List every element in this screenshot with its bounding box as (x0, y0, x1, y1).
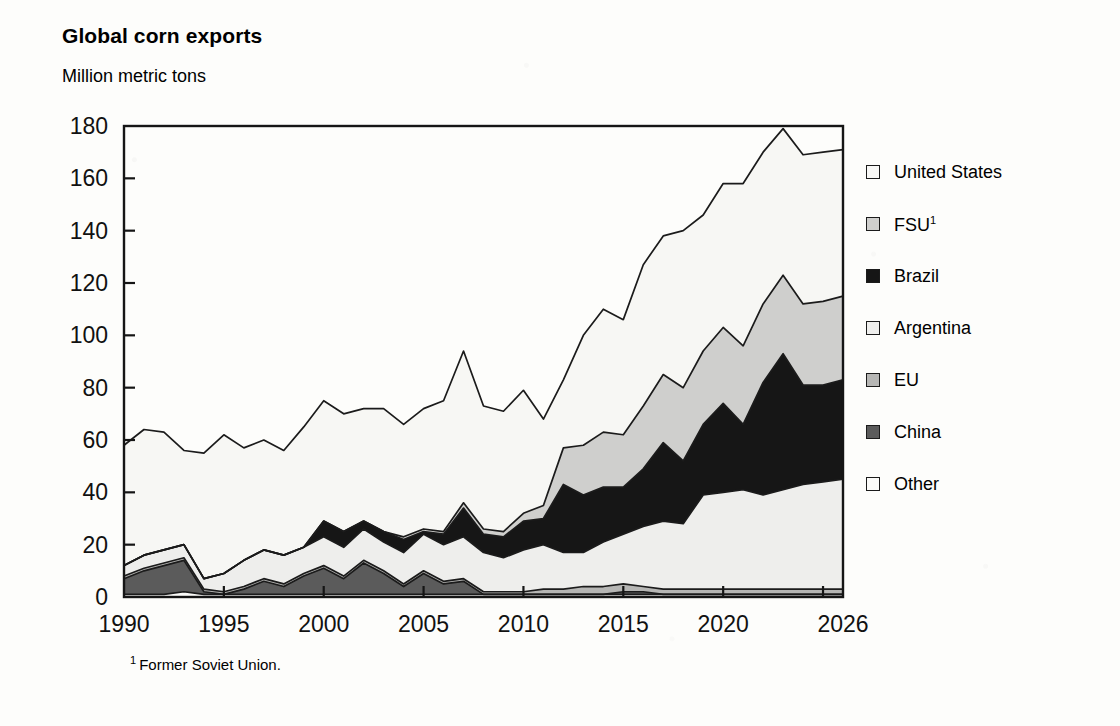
chart-legend: United StatesFSU1BrazilArgentinaEUChinaO… (866, 162, 1106, 494)
legend-item-brazil[interactable]: Brazil (866, 266, 1106, 286)
x-tick-label-1990: 1990 (98, 611, 149, 637)
y-tick-label-160: 160 (70, 165, 108, 191)
legend-swatch-eu-icon (866, 373, 880, 387)
x-tick-label-2000: 2000 (298, 611, 349, 637)
legend-label-china: China (894, 423, 941, 441)
legend-item-other[interactable]: Other (866, 474, 1106, 494)
chart-footnote: 1Former Soviet Union. (130, 654, 281, 673)
y-tick-label-180: 180 (70, 113, 108, 139)
footnote-marker: 1 (130, 654, 136, 666)
legend-label-eu: EU (894, 371, 919, 389)
y-tick-label-120: 120 (70, 270, 108, 296)
y-tick-label-20: 20 (82, 532, 108, 558)
y-tick-label-60: 60 (82, 427, 108, 453)
legend-swatch-brazil-icon (866, 269, 880, 283)
x-tick-labels-group: 19901995200020052010201520202026 (98, 611, 868, 637)
y-tick-label-140: 140 (70, 218, 108, 244)
legend-swatch-fsu-icon (866, 217, 880, 231)
x-tick-label-1995: 1995 (198, 611, 249, 637)
legend-label-brazil: Brazil (894, 267, 939, 285)
legend-label-fsu-superscript: 1 (930, 214, 936, 226)
legend-swatch-argentina-icon (866, 321, 880, 335)
y-tick-labels-group: 020406080100120140160180 (70, 113, 108, 610)
x-tick-label-2015: 2015 (598, 611, 649, 637)
legend-item-eu[interactable]: EU (866, 370, 1106, 390)
legend-label-other: Other (894, 475, 939, 493)
legend-item-united-states[interactable]: United States (866, 162, 1106, 182)
y-tick-label-0: 0 (95, 584, 108, 610)
legend-label-united-states: United States (894, 163, 1002, 181)
legend-swatch-china-icon (866, 425, 880, 439)
legend-swatch-united-states-icon (866, 165, 880, 179)
x-tick-label-2010: 2010 (498, 611, 549, 637)
legend-label-fsu: FSU1 (894, 215, 936, 234)
corn-exports-figure: Global corn exports Million metric tons … (0, 0, 1120, 726)
footnote-text: Former Soviet Union. (139, 656, 281, 673)
y-tick-label-80: 80 (82, 375, 108, 401)
x-tick-label-2020: 2020 (698, 611, 749, 637)
legend-item-fsu[interactable]: FSU1 (866, 214, 1106, 234)
legend-item-argentina[interactable]: Argentina (866, 318, 1106, 338)
legend-item-china[interactable]: China (866, 422, 1106, 442)
legend-swatch-other-icon (866, 477, 880, 491)
y-tick-label-100: 100 (70, 322, 108, 348)
x-tick-label-2005: 2005 (398, 611, 449, 637)
area-bands-group (124, 129, 843, 597)
x-tick-label-2026: 2026 (817, 611, 868, 637)
y-tick-label-40: 40 (82, 479, 108, 505)
legend-label-argentina: Argentina (894, 319, 971, 337)
